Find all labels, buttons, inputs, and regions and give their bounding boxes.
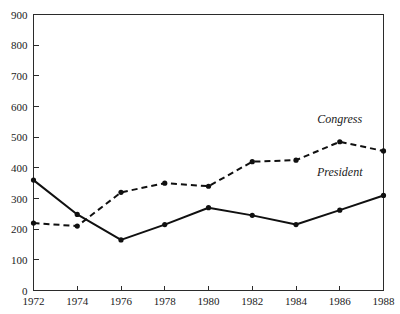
y-tick-label: 600	[11, 101, 28, 113]
x-tick-label: 1988	[373, 295, 396, 307]
chart-page: 0100200300400500600700800900 19721974197…	[0, 0, 400, 314]
data-point-president	[206, 205, 211, 210]
data-point-president	[250, 213, 255, 218]
data-point-president	[75, 212, 80, 217]
x-tick-label: 1972	[23, 295, 45, 307]
data-point-president	[118, 237, 123, 242]
y-tick-label: 500	[11, 131, 28, 143]
series-label-congress: Congress	[317, 112, 362, 126]
data-point-president	[337, 208, 342, 213]
data-point-congress	[250, 159, 255, 164]
data-point-congress	[381, 148, 386, 153]
y-tick-label: 300	[11, 193, 28, 205]
data-point-congress	[337, 139, 342, 144]
data-point-president	[381, 193, 386, 198]
data-point-congress	[118, 190, 123, 195]
y-tick-label: 800	[11, 39, 28, 51]
data-point-president	[31, 178, 36, 183]
x-tick-label: 1982	[241, 295, 263, 307]
y-tick-label: 900	[11, 9, 28, 21]
x-tick-label: 1984	[285, 295, 308, 307]
x-tick-label: 1976	[110, 295, 133, 307]
data-point-president	[162, 222, 167, 227]
data-point-congress	[162, 181, 167, 186]
line-chart: 0100200300400500600700800900 19721974197…	[0, 0, 400, 314]
data-point-congress	[31, 220, 36, 225]
y-tick-label: 100	[11, 254, 28, 266]
x-tick-label: 1980	[198, 295, 221, 307]
data-point-congress	[293, 158, 298, 163]
x-tick-label: 1978	[154, 295, 177, 307]
y-tick-label: 200	[11, 223, 28, 235]
data-point-president	[293, 222, 298, 227]
series-label-president: President	[316, 165, 363, 179]
y-tick-label: 400	[11, 162, 28, 174]
x-axis-tick-labels: 197219741976197819801982198419861988	[23, 295, 396, 307]
data-point-congress	[75, 224, 80, 229]
y-tick-label: 700	[11, 70, 28, 82]
x-tick-label: 1974	[66, 295, 89, 307]
chart-background	[0, 0, 400, 314]
x-tick-label: 1986	[329, 295, 352, 307]
data-point-congress	[206, 184, 211, 189]
